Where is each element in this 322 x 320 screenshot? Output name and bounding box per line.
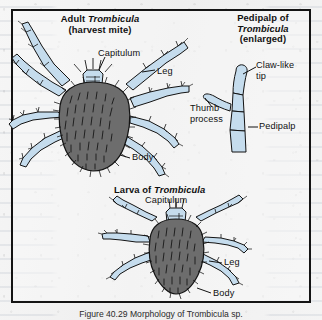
larva-panel-title: Larva of Trombicula [114, 185, 205, 196]
larva-title-plain: Larva of [114, 184, 154, 195]
larva-body [143, 213, 209, 299]
figure-page: Adult Trombicula (harvest mite) Capitulu… [0, 0, 322, 320]
larva-title-species: Trombicula [154, 184, 205, 195]
figure-caption: Figure 40.29 Morphology of Trombicula sp… [0, 309, 322, 319]
larva-label-body: Body [213, 288, 234, 298]
larva-label-capitulum: Capitulum [145, 195, 187, 205]
larva-label-leg: Leg [224, 257, 240, 267]
leader-larva-body [197, 288, 211, 293]
larva-mite-illustration [0, 0, 322, 320]
